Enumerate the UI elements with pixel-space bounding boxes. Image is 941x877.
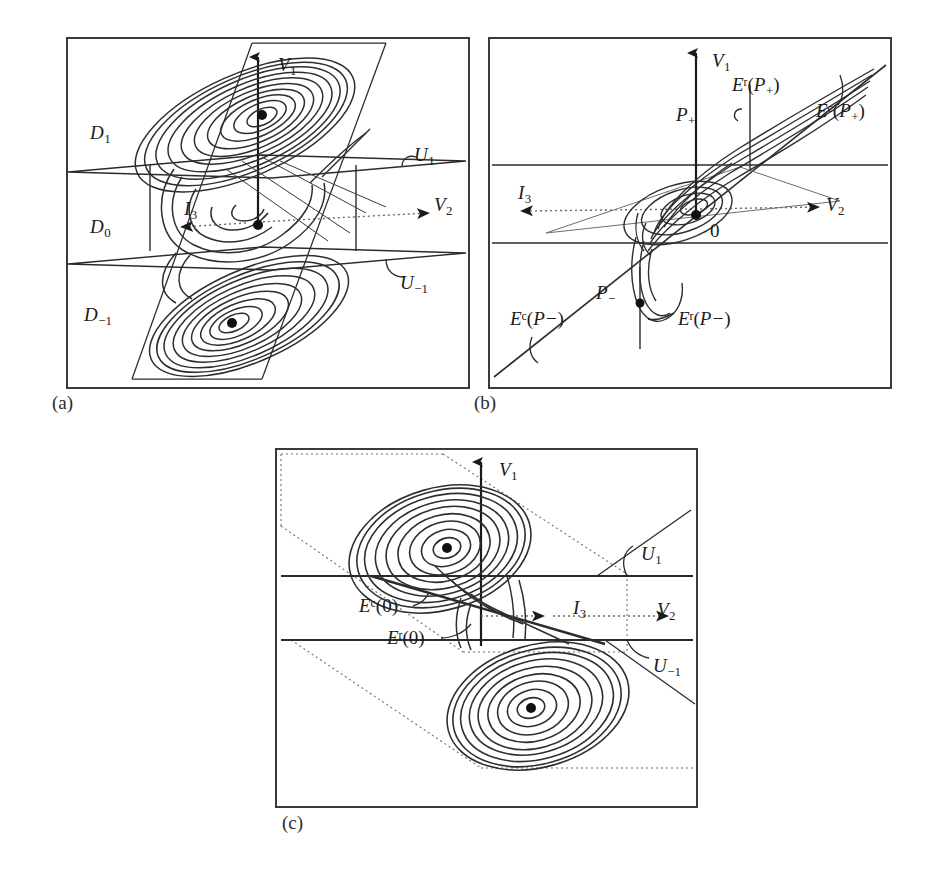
- lower-scroll-trajectory: [133, 230, 366, 389]
- label-axis-v1: V1: [712, 51, 731, 74]
- label-region-d1: D1: [90, 123, 111, 146]
- lower-fold: [632, 237, 683, 321]
- panel-c-figure: [275, 448, 698, 808]
- plane-u1-shape: [68, 155, 466, 251]
- lower-scroll-trajectory: [432, 622, 644, 791]
- label-axis-v1: V1: [278, 55, 297, 78]
- label-equilibrium-p-plus: P+: [676, 105, 695, 128]
- label-axis-v2: V2: [826, 195, 845, 218]
- label-axis-i3: I3: [518, 183, 531, 206]
- label-origin: 0: [710, 221, 720, 240]
- equilibrium-origin-dot: [691, 210, 701, 220]
- equilibrium-lower-dot: [526, 703, 536, 713]
- eigenline-er-p-minus: [640, 267, 674, 349]
- equilibrium-origin-dot: [253, 220, 263, 230]
- panel-a-figure: [66, 37, 470, 389]
- panel-a: D1 D0 D−1 V1 V2 I3 U1 U−1: [66, 37, 470, 389]
- label-axis-v1: V1: [499, 460, 518, 483]
- equilibrium-p-minus-dot: [636, 299, 645, 308]
- panel-c: V1 V2 I3 U1 U−1 Ec(0) Er(0): [275, 448, 698, 808]
- label-plane-u1: U1: [414, 145, 435, 168]
- equilibria-dots: [227, 110, 267, 328]
- label-eigen-er-p-plus: Er(P+): [732, 75, 780, 98]
- label-plane-um1: U−1: [400, 273, 428, 296]
- label-axis-i3: I3: [184, 199, 197, 222]
- leader-lines: [413, 546, 649, 658]
- equilibrium-lower-dot: [227, 318, 237, 328]
- panel-b: V1 V2 I3 0 P+ P− Er(P+) Ec(P+) Er(P−) Ec…: [488, 37, 892, 389]
- label-eigen-ec-p-plus: Ec(P+): [816, 101, 865, 124]
- label-eigen-er-p-minus: Er(P−): [678, 309, 731, 328]
- panel-b-caption: (b): [474, 392, 496, 414]
- label-eigen-ec-p-minus: Ec(P−): [510, 309, 564, 328]
- label-plane-u1: U1: [641, 544, 662, 567]
- ec-sheet-outline: [281, 454, 627, 652]
- label-plane-um1: U−1: [653, 656, 681, 679]
- figure-root: D1 D0 D−1 V1 V2 I3 U1 U−1 (a): [0, 0, 941, 877]
- label-axis-v2: V2: [434, 195, 453, 218]
- equilibrium-upper-dot: [257, 110, 267, 120]
- label-eigen-er-0: Er(0): [387, 628, 425, 647]
- label-equilibrium-p-minus: P−: [596, 283, 615, 306]
- equilibrium-upper-dot: [442, 543, 452, 553]
- label-axis-i3: I3: [573, 598, 586, 621]
- label-eigen-ec-0: Ec(0): [359, 596, 398, 615]
- label-region-d0: D0: [90, 217, 111, 240]
- panel-a-caption: (a): [52, 392, 73, 414]
- label-axis-v2: V2: [657, 600, 676, 623]
- leader-ec-p-minus: [530, 337, 538, 363]
- label-region-dm1: D−1: [84, 305, 112, 328]
- panel-c-caption: (c): [282, 812, 303, 834]
